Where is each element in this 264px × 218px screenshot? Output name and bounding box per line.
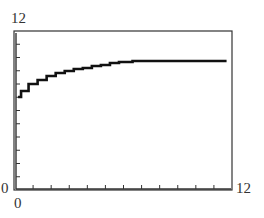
chart-plot-area: [0, 0, 264, 218]
data-curve: [18, 61, 227, 97]
axis-ticks: [16, 44, 214, 189]
chart-frame: [14, 31, 232, 190]
